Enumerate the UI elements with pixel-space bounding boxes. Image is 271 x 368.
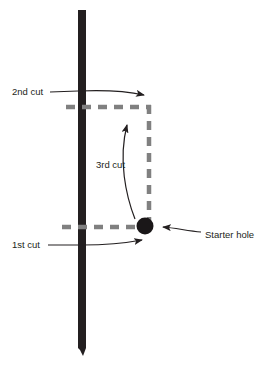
third-cut-leader bbox=[123, 125, 135, 219]
starter-hole-leader bbox=[163, 227, 201, 232]
label-second-cut: 2nd cut bbox=[12, 86, 44, 97]
label-first-cut: 1st cut bbox=[12, 239, 40, 250]
label-starter-hole: Starter hole bbox=[205, 229, 254, 240]
second-cut-leader bbox=[50, 91, 144, 95]
vertical-board bbox=[78, 10, 86, 356]
starter-hole bbox=[137, 218, 154, 235]
diagram-canvas: 2nd cut 3rd cut 1st cut Starter hole bbox=[0, 0, 271, 368]
first-cut-leader bbox=[48, 240, 142, 245]
label-third-cut: 3rd cut bbox=[96, 159, 125, 170]
plunge-cut-diagram: 2nd cut 3rd cut 1st cut Starter hole bbox=[0, 0, 271, 368]
